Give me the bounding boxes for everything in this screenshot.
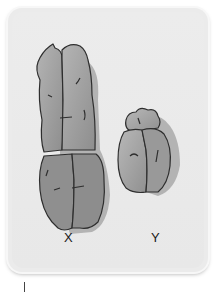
y-chromosome-label: Y <box>151 230 160 245</box>
page-edge-mark <box>24 282 25 292</box>
x-chromosome-label: X <box>64 230 73 245</box>
chromosome-illustration <box>0 0 219 292</box>
